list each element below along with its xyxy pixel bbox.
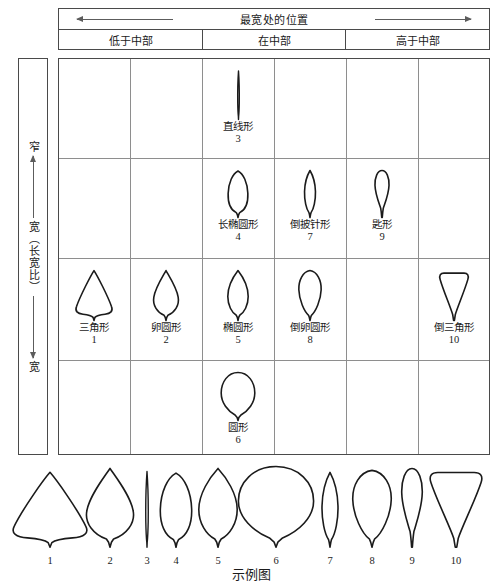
leaf-shape-number: 4 <box>202 231 274 244</box>
leaf-shape-number: 6 <box>202 434 274 447</box>
leaf-shape-number: 1 <box>58 334 130 347</box>
leaf-shape-icon <box>202 258 274 321</box>
example-leaf-obtriangular <box>418 466 494 548</box>
grid-cell-obovate: 倒卵圆形8 <box>274 258 346 360</box>
leaf-shape-number: 2 <box>130 334 202 347</box>
leaf-shape-label: 三角形 <box>58 321 130 334</box>
y-axis-down-arrow-icon <box>33 296 34 358</box>
y-axis-middle-label: 宽（长宽比） <box>28 221 39 293</box>
grid-cell-oblong: 长椭圆形4 <box>202 158 274 258</box>
header-column-row: 低于中部 在中部 高于中部 <box>59 30 489 50</box>
leaf-shape-label: 长椭圆形 <box>202 218 274 231</box>
header-title: 最宽处的位置 <box>240 11 309 27</box>
example-row: 12345678910 示例图 <box>0 462 502 579</box>
leaf-shape-number: 5 <box>202 334 274 347</box>
grid-cell-orbicular: 圆形6 <box>202 360 274 455</box>
y-axis-box: 窄 宽（长宽比） 宽 <box>18 58 48 455</box>
example-leaf-ovate <box>74 466 146 548</box>
grid-cell-spatulate: 匙形9 <box>346 158 418 258</box>
grid-cell-oblanceolate: 倒披针形7 <box>274 158 346 258</box>
leaf-shape-icon <box>274 158 346 218</box>
grid-cell-ovate: 卵圆形2 <box>130 258 202 360</box>
example-caption: 示例图 <box>0 564 502 583</box>
leaf-shape-number: 8 <box>274 334 346 347</box>
grid-cell-elliptic: 椭圆形5 <box>202 258 274 360</box>
header-table: 最宽处的位置 低于中部 在中部 高于中部 <box>58 8 490 50</box>
leaf-shape-label: 直线形 <box>202 120 274 133</box>
leaf-shape-icon <box>58 258 130 321</box>
leaf-shape-icon <box>418 258 490 321</box>
header-title-row: 最宽处的位置 <box>59 9 489 30</box>
y-axis-up-arrow-icon <box>33 156 34 218</box>
leaf-shape-label: 椭圆形 <box>202 321 274 334</box>
leaf-shape-number: 10 <box>418 334 490 347</box>
leaf-shape-icon <box>274 258 346 321</box>
y-axis-top-label: 窄 <box>28 141 39 153</box>
leaf-shape-icon <box>202 360 274 421</box>
leaf-shape-number: 7 <box>274 231 346 244</box>
leaf-shape-number: 9 <box>346 231 418 244</box>
leaf-shape-label: 卵圆形 <box>130 321 202 334</box>
leaf-shape-icon <box>202 59 274 120</box>
left-arrow-icon <box>77 19 173 20</box>
leaf-shape-label: 圆形 <box>202 421 274 434</box>
leaf-shape-icon <box>346 158 418 218</box>
leaf-shape-icon <box>130 258 202 321</box>
leaf-shape-icon <box>202 158 274 218</box>
grid-cell-triangular: 三角形1 <box>58 258 130 360</box>
grid-vline-1 <box>130 59 131 454</box>
grid-vline-5 <box>418 59 419 454</box>
header-col-above-middle: 高于中部 <box>346 30 489 50</box>
example-leaf-orbicular <box>229 464 323 548</box>
leaf-shape-label: 倒披针形 <box>274 218 346 231</box>
right-arrow-icon <box>375 19 471 20</box>
leaf-shape-label: 倒卵圆形 <box>274 321 346 334</box>
leaf-shape-label: 倒三角形 <box>418 321 490 334</box>
grid-cell-linear: 直线形3 <box>202 59 274 158</box>
leaf-shape-label: 匙形 <box>346 218 418 231</box>
header-col-below-middle: 低于中部 <box>59 30 203 50</box>
classification-grid: 直线形3长椭圆形4倒披针形7匙形9三角形1卵圆形2椭圆形5倒卵圆形8倒三角形10… <box>58 58 490 455</box>
grid-hline-3 <box>59 360 489 361</box>
leaf-shape-number: 3 <box>202 133 274 146</box>
grid-cell-obtriangular: 倒三角形10 <box>418 258 490 360</box>
y-axis-bottom-label: 宽 <box>28 361 39 373</box>
header-col-at-middle: 在中部 <box>203 30 346 50</box>
